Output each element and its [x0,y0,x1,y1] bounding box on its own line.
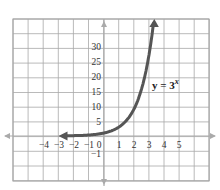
y-tick-label: 15 [92,87,102,97]
exponential-graph: −4−3−2−101234551015202530−1 y = 3x [0,0,220,190]
x-tick-label: 1 [117,140,122,150]
function-label: y = 3x [152,77,179,91]
y-tick-label: 30 [92,42,102,52]
y-tick-label: 5 [96,117,101,127]
x-tick-label: −4 [39,140,49,150]
x-tick-label: −2 [69,140,79,150]
x-axis-left-arrow-icon [4,133,10,139]
y-tick-label-neg: −1 [91,149,101,159]
x-tick-label: 3 [147,140,152,150]
x-tick-label: 2 [132,140,137,150]
plot-frame [13,19,209,181]
x-tick-label: −3 [54,140,64,150]
y-tick-label: 25 [92,57,102,67]
x-axis-right-arrow-icon [210,133,216,139]
x-tick-label: 5 [177,140,182,150]
y-tick-label: 10 [92,102,102,112]
y-axis-down-arrow-icon [101,179,107,185]
x-tick-label: 4 [162,140,167,150]
y-tick-label: 20 [92,72,102,82]
